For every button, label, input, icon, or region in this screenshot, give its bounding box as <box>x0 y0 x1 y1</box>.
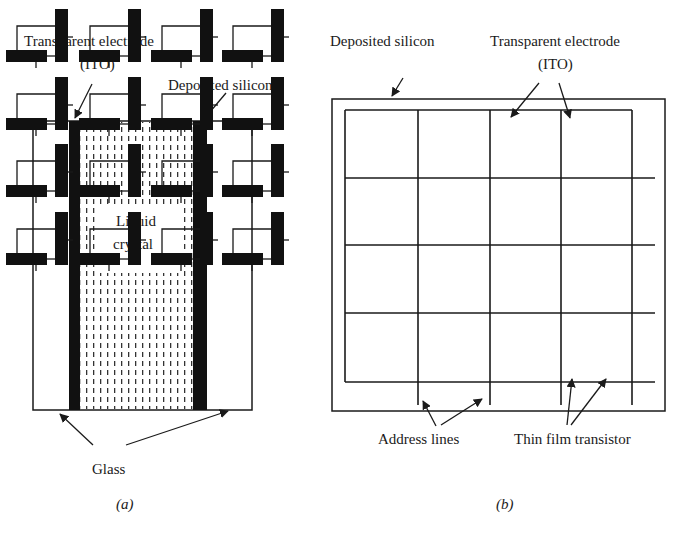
pixel-electrode <box>55 9 68 62</box>
substrate-frame <box>332 99 665 411</box>
arrow-glass-left <box>60 414 93 445</box>
arrow-address-line-1 <box>423 401 436 426</box>
arrow-electrode-b-1 <box>511 83 539 117</box>
arrow-address-line-2 <box>441 399 482 425</box>
pixel-grid <box>345 110 655 405</box>
arrow-glass-right <box>126 411 228 445</box>
label-deposited-silicon-b: Deposited silicon <box>330 33 435 49</box>
label-thin-film-transistor: Thin film transistor <box>514 431 631 447</box>
caption-b: (b) <box>496 496 514 513</box>
arrow-tft-2 <box>571 379 606 425</box>
label-transparent-electrode-b: Transparent electrode <box>490 33 620 49</box>
label-address-lines: Address lines <box>378 431 459 447</box>
electrode-left <box>69 121 80 410</box>
thin-film-transistor <box>6 50 47 62</box>
lcd-diagram: Transparent electrode (ITO) Deposited si… <box>0 0 691 538</box>
panel-b: Deposited silicon Transparent electrode … <box>6 9 665 513</box>
caption-a: (a) <box>116 496 134 513</box>
label-glass: Glass <box>92 461 125 477</box>
arrow-tft-1 <box>567 379 572 425</box>
label-deposited-silicon-a: Deposited silicon <box>168 77 273 93</box>
arrow-silicon-b <box>392 78 403 96</box>
label-ito-b: (ITO) <box>538 56 573 73</box>
